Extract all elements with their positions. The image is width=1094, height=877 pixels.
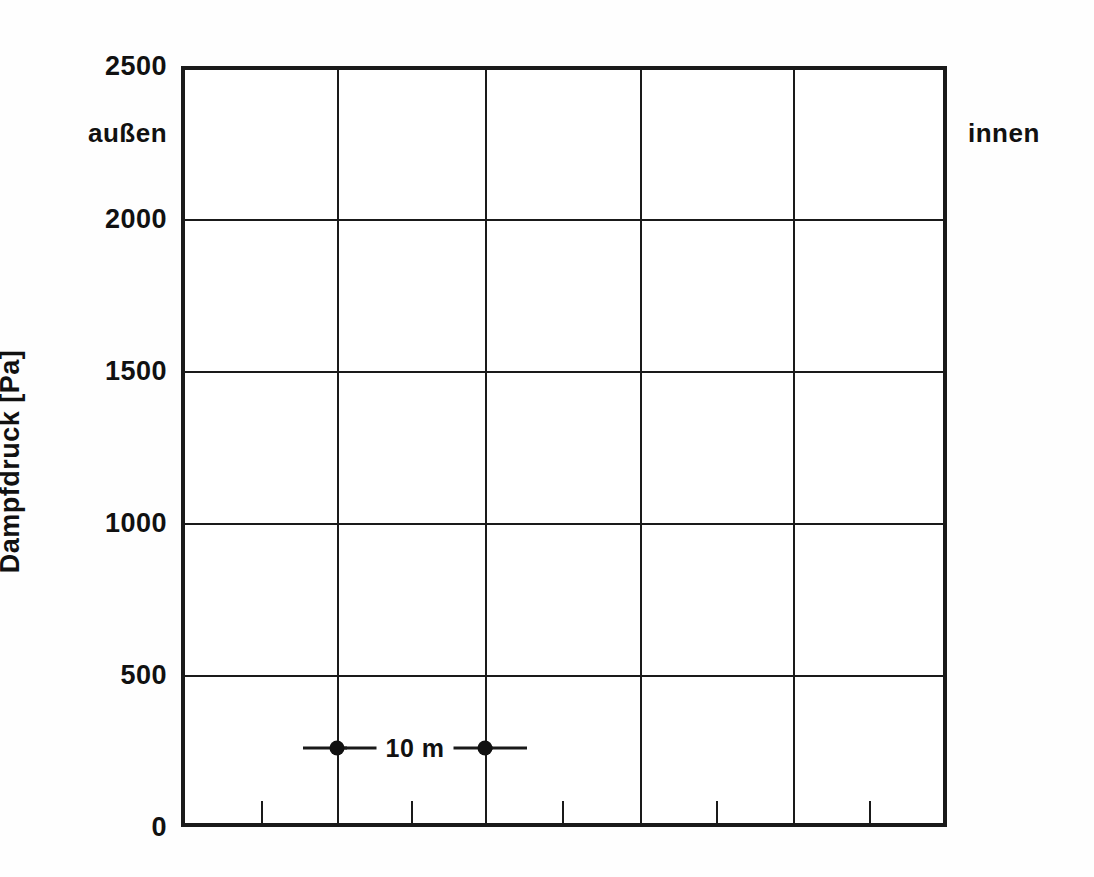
y-tick-label-2000: 2000 bbox=[105, 206, 167, 233]
gridline-horizontal-1000 bbox=[185, 523, 943, 525]
gridline-horizontal-500 bbox=[185, 675, 943, 677]
gridline-vertical-4 bbox=[793, 70, 795, 823]
gridline-horizontal-2000 bbox=[185, 219, 943, 221]
scale-bar-marker-right bbox=[478, 741, 493, 756]
chart-page: 2500 2000 1500 1000 500 0 Dampfdruck [Pa… bbox=[0, 0, 1094, 877]
gridline-vertical-2 bbox=[485, 70, 487, 823]
y-axis-title: Dampfdruck [Pa] bbox=[0, 350, 26, 574]
x-minor-tick-3 bbox=[562, 801, 564, 823]
x-minor-tick-2 bbox=[411, 801, 413, 823]
x-minor-tick-4 bbox=[716, 801, 718, 823]
scale-bar-marker-left bbox=[330, 741, 345, 756]
x-minor-tick-5 bbox=[869, 801, 871, 823]
y-tick-label-0: 0 bbox=[151, 814, 167, 841]
y-tick-label-1000: 1000 bbox=[105, 510, 167, 537]
plot-area bbox=[181, 66, 947, 827]
y-tick-label-2500: 2500 bbox=[105, 53, 167, 80]
gridline-vertical-1 bbox=[337, 70, 339, 823]
scale-bar-annotation: 10 m bbox=[303, 738, 527, 758]
y-tick-label-500: 500 bbox=[120, 662, 167, 689]
scale-bar-label: 10 m bbox=[377, 734, 454, 763]
label-inside: innen bbox=[968, 118, 1040, 149]
gridline-vertical-3 bbox=[640, 70, 642, 823]
label-outside: außen bbox=[88, 118, 167, 149]
y-tick-label-1500: 1500 bbox=[105, 358, 167, 385]
gridline-horizontal-1500 bbox=[185, 371, 943, 373]
x-minor-tick-1 bbox=[261, 801, 263, 823]
